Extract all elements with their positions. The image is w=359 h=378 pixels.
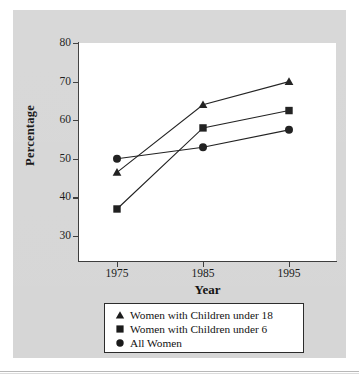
legend-label-1: Women with Children under 6 [130,322,267,336]
data-point [113,155,121,163]
figure-panel: 80 70 60 50 40 30 1975 1985 1995 Percent… [13,10,346,358]
data-point [285,107,292,114]
page-bottom-rule-secondary [0,373,359,374]
circle-marker-icon [113,336,127,350]
data-point [199,124,206,131]
page-bottom-rule [0,371,359,372]
legend-label-2: All Women [130,336,182,350]
legend-label-0: Women with Children under 18 [130,308,273,322]
legend-item-0[interactable]: Women with Children under 18 [113,308,303,322]
data-point [113,205,120,212]
data-point [113,168,122,176]
legend: Women with Children under 18 Women with … [104,303,304,353]
triangle-marker-icon [113,308,127,322]
data-point [199,143,207,151]
legend-item-1[interactable]: Women with Children under 6 [113,322,303,336]
data-point [285,77,294,85]
legend-item-2[interactable]: All Women [113,336,303,350]
series-group [113,77,294,212]
square-marker-icon [113,322,127,336]
data-point [285,126,293,134]
